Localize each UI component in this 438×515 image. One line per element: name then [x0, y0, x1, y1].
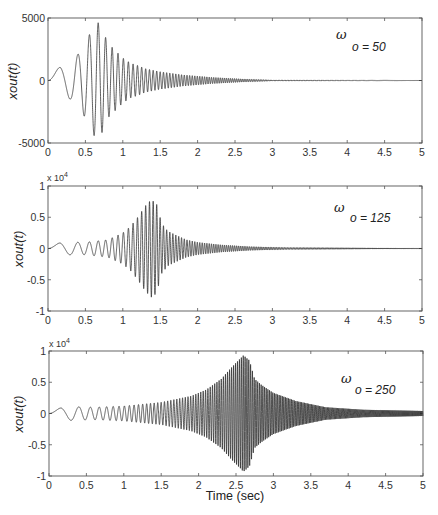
x-tick-label: 5: [419, 146, 425, 158]
x-tick-label: 3.5: [302, 314, 317, 326]
x-tick-label: 0: [45, 146, 51, 158]
x-tick-label: 4.5: [378, 479, 393, 491]
omega-symbol: ω: [341, 371, 352, 386]
y-tick-label: -1: [36, 305, 45, 317]
x-tick-label: 2: [195, 146, 201, 158]
subplot-omega-250: x 104 xout(t) 00.511.522.533.544.55-1-0.…: [11, 337, 426, 491]
y-axis-label: xout(t): [11, 231, 26, 269]
x-tick-label: 4: [344, 146, 350, 158]
y-tick-label: 5000: [22, 12, 46, 24]
x-tick-label: 1: [120, 314, 126, 326]
x-tick-label: 1.5: [154, 479, 169, 491]
y-axis-label: xout(t): [5, 63, 20, 101]
x-tick-label: 3: [270, 479, 276, 491]
y-exponent-label: x 104: [47, 171, 68, 183]
y-tick-label: 0: [39, 75, 45, 87]
x-tick-label: 5: [420, 479, 426, 491]
x-tick-label: 1: [120, 146, 126, 158]
y-tick-label: 0.5: [30, 211, 45, 223]
figure: xout(t) 00.511.522.533.544.55-500005000 …: [0, 0, 438, 515]
y-tick-label: -0.5: [28, 439, 46, 451]
omega-annotation: o = 250: [355, 383, 396, 397]
x-tick-label: 4: [344, 314, 350, 326]
omega-annotation: o = 125: [350, 211, 391, 225]
x-tick-label: 3: [269, 146, 275, 158]
x-tick-label: 3.5: [303, 479, 318, 491]
x-tick-label: 0: [45, 314, 51, 326]
y-tick-label: 1: [39, 180, 45, 192]
subplot-omega-50: xout(t) 00.511.522.533.544.55-500005000 …: [5, 12, 425, 158]
y-tick-label: 0: [39, 243, 45, 255]
x-tick-label: 4.5: [377, 314, 392, 326]
x-tick-label: 0.5: [78, 314, 93, 326]
x-tick-label: 0: [46, 479, 52, 491]
x-tick-label: 2: [196, 479, 202, 491]
tick-group: 00.511.522.533.544.55-1-0.500.51: [27, 180, 425, 326]
x-tick-label: 3.5: [302, 146, 317, 158]
y-tick-label: -1: [37, 470, 46, 482]
omega-annotation: o = 50: [352, 40, 386, 54]
y-exponent-label: x 104: [49, 337, 70, 349]
y-tick-label: -0.5: [27, 274, 45, 286]
x-tick-label: 2.5: [228, 146, 243, 158]
x-tick-label: 0.5: [79, 479, 94, 491]
x-tick-label: 5: [419, 314, 425, 326]
x-tick-label: 1.5: [153, 314, 168, 326]
x-axis-label: Time (sec): [206, 489, 265, 503]
x-tick-label: 3: [269, 314, 275, 326]
tick-group: 00.511.522.533.544.55-500005000: [18, 12, 425, 158]
omega-symbol: ω: [334, 200, 345, 215]
y-tick-label: -5000: [18, 137, 45, 149]
subplot-omega-125: x 104 xout(t) 00.511.522.533.544.55-1-0.…: [11, 171, 425, 326]
signal-trace: [49, 356, 423, 471]
x-tick-label: 0.5: [78, 146, 93, 158]
x-tick-label: 4.5: [377, 146, 392, 158]
x-tick-label: 1: [121, 479, 127, 491]
y-axis-label: xout(t): [11, 396, 26, 434]
y-tick-label: 0: [40, 408, 46, 420]
x-tick-label: 2.5: [228, 314, 243, 326]
x-tick-label: 1.5: [153, 146, 168, 158]
omega-symbol: ω: [336, 27, 347, 42]
y-tick-label: 0.5: [31, 376, 46, 388]
y-tick-label: 1: [40, 345, 46, 357]
x-tick-label: 2: [195, 314, 201, 326]
x-tick-label: 4: [345, 479, 351, 491]
